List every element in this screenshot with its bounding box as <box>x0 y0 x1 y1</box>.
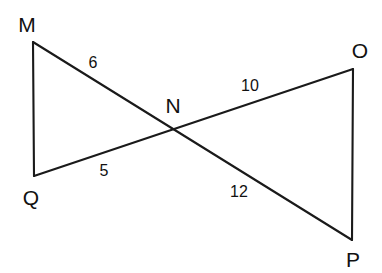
measure-label-NO: 10 <box>241 78 259 94</box>
measure-label-NP: 12 <box>230 184 248 200</box>
vertex-label-Q: Q <box>23 187 39 208</box>
segment-MP <box>33 42 352 240</box>
geometry-figure: M Q N O P 6 5 10 12 <box>0 0 382 273</box>
measure-label-MN: 6 <box>89 55 98 71</box>
segment-OP <box>352 69 353 240</box>
vertex-label-M: M <box>18 14 36 35</box>
segment-MQ <box>33 42 34 176</box>
vertex-label-N: N <box>165 95 180 116</box>
figure-canvas <box>0 0 382 273</box>
vertex-label-O: O <box>352 40 368 61</box>
segment-QO <box>34 69 353 176</box>
measure-label-QN: 5 <box>100 163 109 179</box>
vertex-label-P: P <box>346 249 360 270</box>
